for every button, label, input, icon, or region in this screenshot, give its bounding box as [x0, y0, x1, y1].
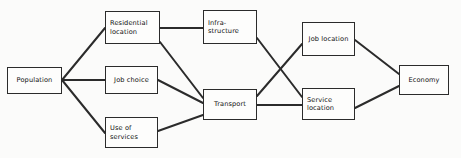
node-label-job_choice: Job choice — [106, 76, 157, 84]
node-label-use_of_services: Use of services — [106, 124, 157, 141]
node-service_location[interactable]: Service location — [302, 88, 355, 120]
edge-residential-to-transport — [160, 42, 203, 98]
edge-job_choice-to-transport — [158, 80, 203, 103]
node-residential[interactable]: Residential location — [105, 11, 160, 44]
node-label-service_location: Service location — [303, 96, 354, 113]
node-label-infrastructure: Infra- structure — [204, 19, 256, 36]
node-use_of_services[interactable]: Use of services — [105, 117, 158, 148]
node-transport[interactable]: Transport — [203, 89, 257, 120]
edge-service_location-to-economy — [355, 86, 399, 108]
diagram-canvas: PopulationResidential locationJob choice… — [0, 0, 461, 158]
node-infrastructure[interactable]: Infra- structure — [203, 10, 257, 44]
node-population[interactable]: Population — [7, 67, 62, 94]
node-label-job_location: Job location — [303, 35, 354, 43]
node-label-transport: Transport — [204, 100, 256, 108]
edge-job_location-to-economy — [355, 40, 399, 74]
node-job_choice[interactable]: Job choice — [105, 66, 158, 94]
node-economy[interactable]: Economy — [399, 65, 449, 95]
node-label-economy: Economy — [400, 76, 448, 84]
edge-population-to-residential — [62, 28, 105, 80]
node-label-population: Population — [8, 76, 61, 84]
node-job_location[interactable]: Job location — [302, 22, 355, 56]
node-label-residential: Residential location — [106, 19, 159, 36]
edge-population-to-use_of_services — [62, 80, 105, 133]
edge-use_of_services-to-transport — [158, 115, 203, 131]
